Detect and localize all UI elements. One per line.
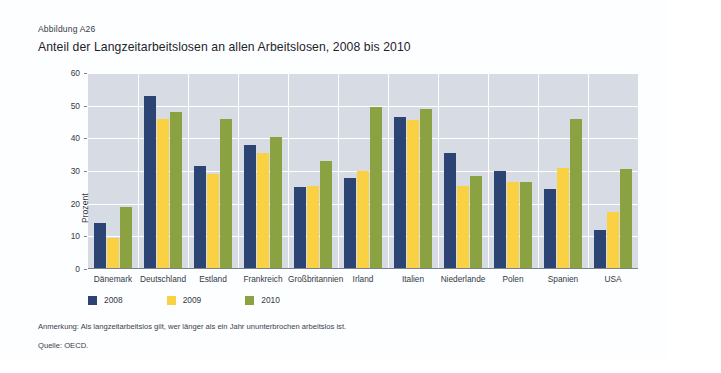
bar	[607, 212, 619, 269]
bar	[520, 182, 532, 269]
legend-item: 2008	[88, 295, 123, 305]
bar	[420, 109, 432, 269]
y-tick-mark	[84, 138, 87, 139]
y-tick-mark	[84, 269, 87, 270]
y-tick-label: 10	[40, 231, 80, 241]
bar	[307, 186, 319, 269]
bar	[107, 238, 119, 269]
legend: 200820092010	[88, 295, 324, 305]
bar	[407, 120, 419, 269]
bar	[294, 187, 306, 269]
x-tick-label: Polen	[488, 274, 538, 284]
bar	[394, 117, 406, 269]
gridline	[88, 106, 638, 107]
category-separator	[338, 73, 339, 269]
bar	[94, 223, 106, 269]
x-tick-label: Irland	[338, 274, 388, 284]
legend-swatch-icon	[88, 296, 97, 305]
bar	[544, 189, 556, 269]
y-tick-label: 0	[40, 264, 80, 274]
x-tick-label: Dänemark	[88, 274, 138, 284]
x-tick-label: USA	[588, 274, 638, 284]
y-tick-mark	[84, 73, 87, 74]
bar	[170, 112, 182, 269]
x-tick-label: Niederlande	[438, 274, 488, 284]
x-tick-label: Italien	[388, 274, 438, 284]
figure-note: Anmerkung: Als langzeitarbeitslos gilt, …	[38, 322, 346, 331]
bar	[344, 178, 356, 269]
x-tick-label: Deutschland	[138, 274, 188, 284]
category-separator	[238, 73, 239, 269]
bar	[470, 176, 482, 269]
bar	[270, 137, 282, 269]
category-separator	[588, 73, 589, 269]
bar	[320, 161, 332, 269]
legend-item: 2009	[167, 295, 202, 305]
figure-title: Anteil der Langzeitarbeitslosen an allen…	[38, 40, 411, 54]
legend-label: 2009	[183, 295, 202, 305]
bar	[157, 119, 169, 269]
y-tick-mark	[84, 236, 87, 237]
bar	[594, 230, 606, 269]
category-separator	[488, 73, 489, 269]
bar	[494, 171, 506, 269]
legend-swatch-icon	[245, 296, 254, 305]
y-tick-label: 30	[40, 166, 80, 176]
legend-item: 2010	[245, 295, 280, 305]
legend-label: 2010	[261, 295, 280, 305]
category-separator	[388, 73, 389, 269]
x-tick-label: Frankreich	[238, 274, 288, 284]
category-separator	[138, 73, 139, 269]
bar	[120, 207, 132, 269]
legend-label: 2008	[104, 295, 123, 305]
y-tick-label: 40	[40, 133, 80, 143]
bar	[357, 171, 369, 269]
bar	[557, 168, 569, 269]
bar	[444, 153, 456, 269]
bar	[207, 174, 219, 269]
x-tick-label: Spanien	[538, 274, 588, 284]
bar	[570, 119, 582, 269]
bar	[194, 166, 206, 269]
bar	[370, 107, 382, 269]
y-tick-label: 50	[40, 101, 80, 111]
x-axis-line	[88, 268, 638, 269]
category-separator	[288, 73, 289, 269]
bar	[620, 169, 632, 269]
y-tick-label: 60	[40, 68, 80, 78]
plot-area-wrapper: Prozent	[88, 73, 638, 269]
category-separator	[538, 73, 539, 269]
bar	[244, 145, 256, 269]
x-tick-label: Estland	[188, 274, 238, 284]
gridline	[88, 73, 638, 74]
figure-number: Abbildung A26	[38, 24, 95, 34]
category-separator	[438, 73, 439, 269]
category-separator	[188, 73, 189, 269]
bar	[220, 119, 232, 269]
y-axis-title: Prozent	[80, 193, 90, 223]
y-tick-label: 20	[40, 199, 80, 209]
x-tick-label: Großbritannien	[288, 274, 338, 284]
figure-source: Quelle: OECD.	[38, 341, 88, 350]
bar	[144, 96, 156, 269]
legend-swatch-icon	[167, 296, 176, 305]
figure-card: Abbildung A26 Anteil der Langzeitarbeits…	[0, 0, 668, 358]
y-tick-mark	[84, 171, 87, 172]
bar	[507, 182, 519, 269]
bar	[457, 186, 469, 269]
y-tick-mark	[84, 106, 87, 107]
bar	[257, 153, 269, 269]
